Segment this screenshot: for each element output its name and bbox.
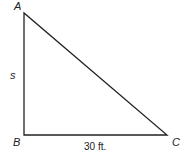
vertex-label-c: C	[172, 136, 180, 148]
side-label-bc: 30 ft.	[84, 141, 106, 152]
vertex-label-a: A	[13, 0, 21, 12]
side-label-ab: s	[10, 69, 16, 81]
triangle-diagram: A B C s 30 ft.	[0, 0, 186, 161]
triangle-abc	[24, 13, 167, 135]
vertex-label-b: B	[13, 136, 20, 148]
